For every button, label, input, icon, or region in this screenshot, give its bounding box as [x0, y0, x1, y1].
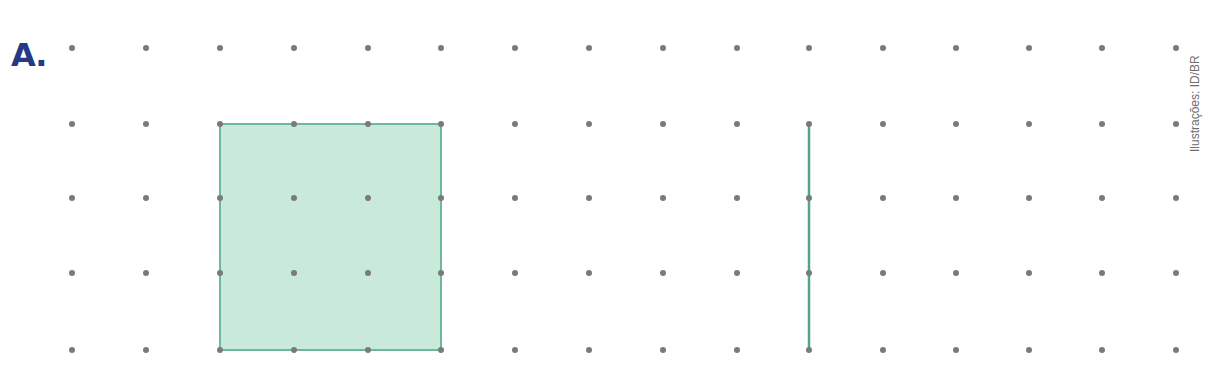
- grid-dot: [806, 45, 812, 51]
- grid-dot: [806, 195, 812, 201]
- grid-dot: [1026, 121, 1032, 127]
- grid-dot: [291, 195, 297, 201]
- grid-dot: [1099, 270, 1105, 276]
- grid-dot: [1026, 347, 1032, 353]
- dot-grid-diagram: [0, 0, 1209, 373]
- grid-dot: [1026, 45, 1032, 51]
- grid-dot: [734, 195, 740, 201]
- grid-dot: [806, 270, 812, 276]
- grid-dot: [438, 121, 444, 127]
- grid-dot: [69, 121, 75, 127]
- grid-dot: [1173, 270, 1179, 276]
- grid-dot: [1026, 270, 1032, 276]
- grid-dot: [1173, 45, 1179, 51]
- grid-dot: [660, 121, 666, 127]
- grid-dot: [660, 195, 666, 201]
- grid-dot: [512, 270, 518, 276]
- grid-dot: [1026, 195, 1032, 201]
- grid-dot: [512, 45, 518, 51]
- grid-dot: [586, 45, 592, 51]
- grid-dot: [953, 195, 959, 201]
- grid-dot: [512, 195, 518, 201]
- grid-dot: [1099, 347, 1105, 353]
- grid-dot: [586, 270, 592, 276]
- grid-dot: [291, 45, 297, 51]
- grid-dot: [1173, 121, 1179, 127]
- grid-dot: [880, 121, 886, 127]
- grid-dot: [660, 347, 666, 353]
- grid-dot: [365, 195, 371, 201]
- grid-dot: [734, 45, 740, 51]
- grid-dot: [365, 45, 371, 51]
- grid-dot: [953, 347, 959, 353]
- grid-dot: [217, 45, 223, 51]
- grid-dot: [217, 347, 223, 353]
- grid-dot: [438, 347, 444, 353]
- grid-dot: [143, 121, 149, 127]
- grid-dot: [291, 121, 297, 127]
- grid-dot: [365, 347, 371, 353]
- grid-dot: [69, 270, 75, 276]
- grid-dot: [217, 121, 223, 127]
- grid-dot: [69, 45, 75, 51]
- square-shape: [220, 124, 441, 350]
- grid-dot: [586, 195, 592, 201]
- grid-dot: [586, 121, 592, 127]
- grid-dot: [512, 347, 518, 353]
- grid-dot: [1173, 347, 1179, 353]
- grid-dot: [1099, 121, 1105, 127]
- grid-dot: [880, 347, 886, 353]
- grid-dot: [734, 347, 740, 353]
- grid-dot: [291, 270, 297, 276]
- grid-dot: [734, 121, 740, 127]
- grid-dot: [660, 45, 666, 51]
- grid-dot: [365, 121, 371, 127]
- grid-dot: [953, 270, 959, 276]
- grid-dot: [512, 121, 518, 127]
- grid-dot: [143, 270, 149, 276]
- grid-dot: [143, 45, 149, 51]
- grid-dot: [586, 347, 592, 353]
- grid-dot: [1099, 45, 1105, 51]
- grid-dot: [880, 45, 886, 51]
- grid-dot: [438, 45, 444, 51]
- grid-dot: [143, 347, 149, 353]
- grid-dot: [143, 195, 149, 201]
- grid-dot: [806, 121, 812, 127]
- grid-dot: [734, 270, 740, 276]
- grid-dot: [880, 195, 886, 201]
- grid-dot: [365, 270, 371, 276]
- grid-dot: [438, 195, 444, 201]
- grid-dot: [660, 270, 666, 276]
- grid-dot: [69, 347, 75, 353]
- grid-dot: [880, 270, 886, 276]
- grid-dot: [1099, 195, 1105, 201]
- grid-dot: [438, 270, 444, 276]
- grid-dot: [69, 195, 75, 201]
- grid-dot: [217, 270, 223, 276]
- grid-dot: [1173, 195, 1179, 201]
- grid-dot: [953, 45, 959, 51]
- grid-dot: [806, 347, 812, 353]
- grid-dot: [291, 347, 297, 353]
- grid-dot: [953, 121, 959, 127]
- grid-dot: [217, 195, 223, 201]
